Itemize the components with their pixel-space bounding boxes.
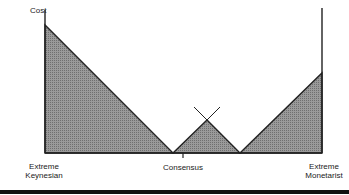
right-cost-triangle (240, 73, 322, 153)
left-cost-triangle (45, 25, 173, 153)
center-cost-triangle (173, 120, 240, 153)
consensus-label: Consensus (158, 163, 208, 172)
label-line: Monetarist (299, 171, 349, 180)
label-line: Keynesian (21, 171, 67, 180)
extreme-keynesian-label: Extreme Keynesian (21, 162, 67, 180)
cross-line-right (207, 107, 220, 120)
extreme-monetarist-label: Extreme Monetarist (299, 162, 349, 180)
label-line: Extreme (299, 162, 349, 171)
cross-line-left (194, 107, 207, 120)
bottom-rule (0, 190, 349, 194)
label-line: Extreme (21, 162, 67, 171)
y-axis-label: Cost (30, 6, 46, 15)
